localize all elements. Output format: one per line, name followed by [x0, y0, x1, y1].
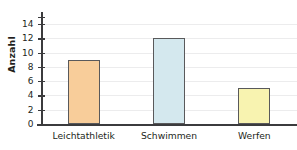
x-axis-line	[37, 124, 297, 126]
y-axis-tick: 4	[38, 95, 45, 96]
x-axis-category-label: Schwimmen	[141, 130, 197, 141]
bar	[153, 38, 185, 124]
bar	[238, 88, 270, 124]
bar-chart: Anzahl 02468101214 LeichtathletikSchwimm…	[0, 0, 297, 150]
y-axis-tick-top	[38, 17, 45, 18]
gridline	[41, 24, 297, 25]
y-axis-tick-label: 12	[22, 33, 33, 43]
y-axis-tick: 6	[38, 81, 45, 82]
y-axis-tick: 12	[38, 38, 45, 39]
y-axis-tick-label: 6	[28, 76, 34, 86]
y-axis-title: Anzahl	[6, 25, 17, 85]
x-axis-category-label: Leichtathletik	[52, 130, 114, 141]
y-axis-tick-label: 2	[28, 105, 34, 115]
plot-area: 02468101214	[41, 12, 297, 125]
y-axis-tick-label: 0	[28, 119, 34, 129]
y-axis-tick: 2	[38, 110, 45, 111]
y-axis-tick: 8	[38, 67, 45, 68]
y-axis-tick: 14	[38, 24, 45, 25]
y-axis-line	[41, 12, 43, 125]
y-axis-tick: 10	[38, 53, 45, 54]
x-axis-category-label: Werfen	[238, 130, 271, 141]
y-axis-tick-label: 14	[22, 19, 33, 29]
y-axis-tick-label: 10	[22, 48, 33, 58]
bar	[68, 60, 100, 124]
y-axis-tick: 0	[38, 124, 45, 125]
y-axis-tick-label: 4	[28, 90, 34, 100]
y-axis-tick-label: 8	[28, 62, 34, 72]
